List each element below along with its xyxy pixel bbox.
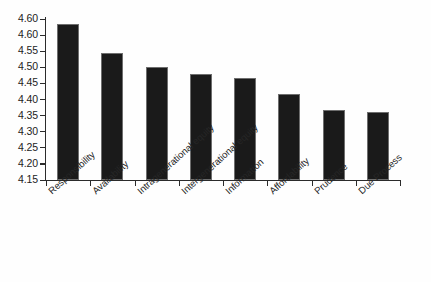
- y-axis-tick: [40, 51, 45, 52]
- y-axis-tick: [40, 180, 45, 181]
- y-axis-tick-label: 4.50: [0, 61, 38, 72]
- y-axis-tick: [40, 147, 45, 148]
- y-axis-tick-label: 4.30: [0, 126, 38, 137]
- y-axis-tick-label: 4.60: [0, 13, 38, 24]
- y-axis-tick-label: 4.45: [0, 77, 38, 88]
- y-axis-tick-label: 4.55: [0, 45, 38, 56]
- y-axis-tick: [40, 131, 45, 132]
- y-axis-tick-label: 4.35: [0, 110, 38, 121]
- y-axis-tick-label: 4.40: [0, 94, 38, 105]
- y-axis-tick-label: 4.20: [0, 158, 38, 169]
- y-axis-tick: [40, 35, 45, 36]
- x-axis-labels: ResponsibilityAvailabilityIntrageneratio…: [0, 186, 431, 282]
- y-axis-tick: [40, 115, 45, 116]
- y-axis-tick-label: 4.25: [0, 142, 38, 153]
- bar-chart: 4.604.604.554.504.454.404.354.304.254.20…: [0, 0, 431, 282]
- y-axis-tick-label: 4.60: [0, 29, 38, 40]
- y-axis-tick: [40, 19, 45, 20]
- y-axis-tick: [40, 67, 45, 68]
- y-axis-tick: [40, 99, 45, 100]
- y-axis-tick-label: 4.15: [0, 174, 38, 185]
- y-axis-tick: [40, 163, 45, 164]
- y-axis-tick: [40, 83, 45, 84]
- bar: [57, 24, 79, 180]
